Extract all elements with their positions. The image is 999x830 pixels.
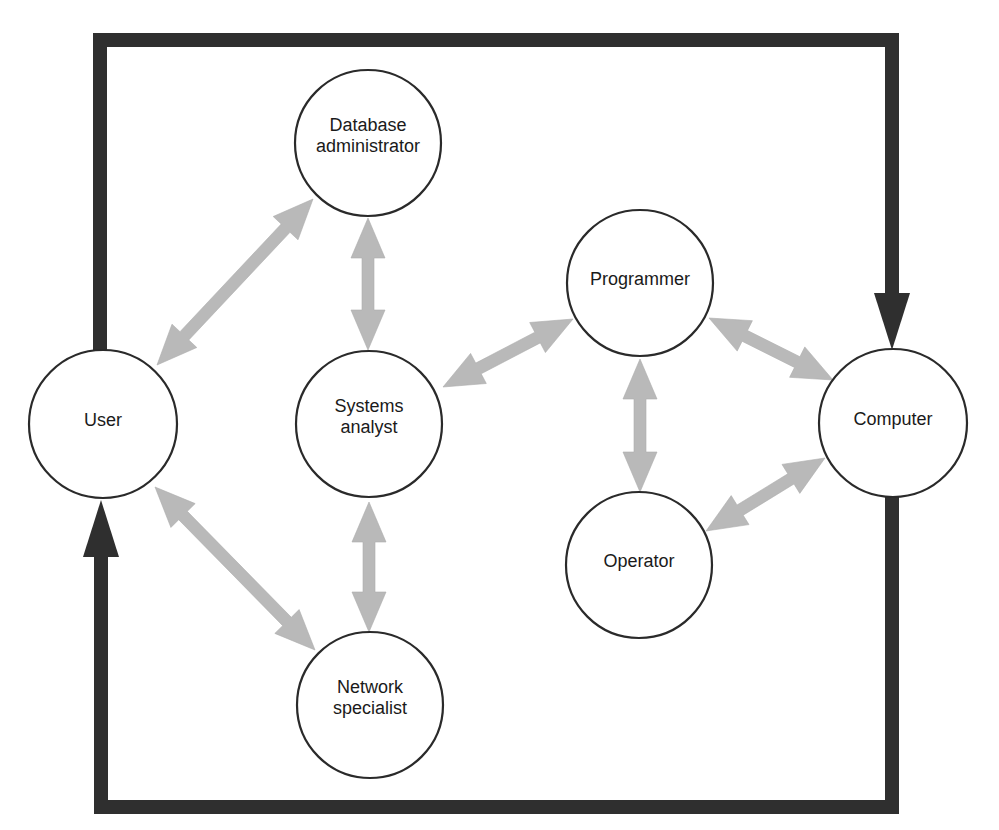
double-arrow-operator-to-computer-icon <box>706 458 825 531</box>
node-label-line: analyst <box>340 417 397 438</box>
node-label-line: specialist <box>333 698 407 719</box>
node-label-programmer: Programmer <box>567 210 713 348</box>
node-label-line: User <box>84 410 122 431</box>
node-label-network-specialist: Networkspecialist <box>297 632 443 764</box>
double-arrow-database-administrator-to-systems-analyst-icon <box>351 218 385 350</box>
double-arrow-systems-analyst-to-programmer-icon <box>443 319 573 387</box>
node-label-line: Systems <box>334 396 403 417</box>
node-label-computer: Computer <box>819 349 967 489</box>
node-label-database-administrator: Databaseadministrator <box>295 70 441 202</box>
double-arrow-user-to-network-specialist-icon <box>155 487 315 650</box>
node-label-line: Network <box>337 677 403 698</box>
node-label-line: administrator <box>316 136 420 157</box>
node-label-line: Programmer <box>590 269 690 290</box>
double-arrow-user-to-database-administrator-icon <box>157 199 313 365</box>
frame-bottom-segment <box>101 496 892 807</box>
node-label-user: User <box>29 350 177 490</box>
double-arrow-programmer-to-operator-icon <box>623 359 657 492</box>
arrowhead-into-user-icon <box>83 500 119 557</box>
arrowhead-into-computer-icon <box>874 293 910 350</box>
node-label-line: Computer <box>853 409 932 430</box>
node-label-line: Operator <box>603 551 674 572</box>
information-flow-frame <box>83 40 910 807</box>
double-arrow-programmer-to-computer-icon <box>709 318 833 380</box>
node-label-systems-analyst: Systemsanalyst <box>296 351 442 483</box>
node-label-line: Database <box>329 115 406 136</box>
node-label-operator: Operator <box>566 492 712 630</box>
double-arrow-systems-analyst-to-network-specialist-icon <box>352 502 386 632</box>
relationship-links <box>155 199 833 650</box>
